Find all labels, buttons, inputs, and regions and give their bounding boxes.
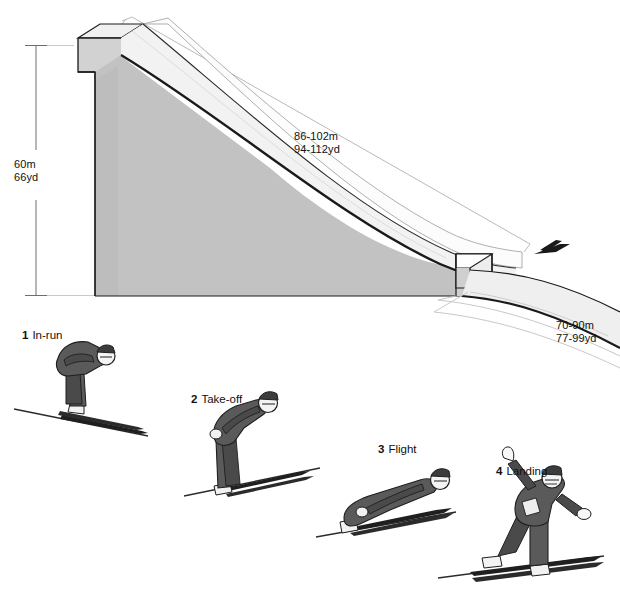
landing-distance-label: 70-90m 77-99yd bbox=[556, 319, 596, 344]
figure-flight bbox=[316, 469, 456, 537]
inrun-length-imperial: 94-112yd bbox=[294, 143, 340, 156]
stage-label-landing: 4Landing bbox=[496, 465, 547, 478]
hill-face bbox=[95, 54, 460, 296]
landing-distance-imperial: 77-99yd bbox=[556, 332, 596, 345]
hill-height-label: 60m 66yd bbox=[14, 158, 38, 183]
airborne-jumper-icon bbox=[534, 240, 570, 254]
stage-number-2: 2 bbox=[191, 393, 197, 405]
inrun-length-metric: 86-102m bbox=[294, 130, 340, 143]
stage-text-2: Take-off bbox=[201, 393, 242, 405]
stage-number-3: 3 bbox=[378, 443, 384, 455]
stage-text-3: Flight bbox=[388, 443, 416, 455]
stage-label-in-run: 1In-run bbox=[22, 329, 62, 342]
figure-in-run bbox=[14, 342, 148, 436]
stage-label-take-off: 2Take-off bbox=[191, 393, 242, 406]
stage-number-1: 1 bbox=[22, 329, 28, 341]
figure-take-off bbox=[184, 392, 320, 497]
stage-text-4: Landing bbox=[506, 465, 547, 477]
diagram-canvas bbox=[0, 0, 620, 599]
hill-height-metric: 60m bbox=[14, 158, 38, 171]
ski-jump-diagram: 60m 66yd 86-102m 94-112yd 70-90m 77-99yd… bbox=[0, 0, 620, 599]
stage-text-1: In-run bbox=[32, 329, 62, 341]
landing-distance-metric: 70-90m bbox=[556, 319, 596, 332]
stage-label-flight: 3Flight bbox=[378, 443, 417, 456]
stage-number-4: 4 bbox=[496, 465, 502, 477]
inrun-length-label: 86-102m 94-112yd bbox=[294, 130, 340, 155]
hill-height-imperial: 66yd bbox=[14, 171, 38, 184]
